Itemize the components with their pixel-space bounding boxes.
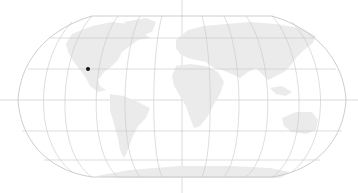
africa — [172, 64, 224, 128]
antarctica — [96, 166, 290, 178]
location-marker[interactable] — [86, 67, 90, 71]
southeast-asia — [270, 86, 292, 96]
world-map[interactable] — [0, 0, 358, 193]
south-america — [110, 94, 150, 158]
